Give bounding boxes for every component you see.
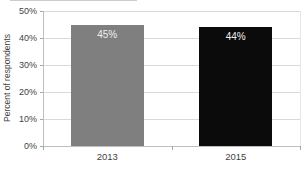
bar-value-label: 45% bbox=[71, 29, 144, 40]
plot-right-border bbox=[300, 11, 301, 146]
bar-value-label: 44% bbox=[199, 31, 272, 42]
x-tick-mark bbox=[43, 146, 44, 150]
y-tick-label: 20% bbox=[0, 87, 37, 97]
y-tick-label: 30% bbox=[0, 60, 37, 70]
y-tick-label: 10% bbox=[0, 114, 37, 124]
bar-2013 bbox=[71, 25, 144, 147]
plot-area: 45%44%0%10%20%30%40%50%20132015 bbox=[0, 0, 308, 170]
y-tick-mark bbox=[40, 92, 43, 93]
bar-2015 bbox=[199, 27, 272, 146]
x-tick-mark bbox=[300, 146, 301, 150]
y-tick-label: 50% bbox=[0, 6, 37, 16]
y-tick-mark bbox=[40, 38, 43, 39]
y-tick-mark bbox=[40, 65, 43, 66]
gridline bbox=[43, 11, 300, 12]
x-tick-mark bbox=[172, 146, 173, 150]
x-category-label: 2015 bbox=[172, 151, 301, 162]
y-tick-mark bbox=[40, 119, 43, 120]
bar-chart: Percent of respondents 45%44%0%10%20%30%… bbox=[0, 0, 308, 170]
y-tick-label: 0% bbox=[0, 141, 37, 151]
y-tick-label: 40% bbox=[0, 33, 37, 43]
y-tick-mark bbox=[40, 11, 43, 12]
y-axis-line bbox=[43, 11, 44, 146]
x-category-label: 2013 bbox=[43, 151, 172, 162]
